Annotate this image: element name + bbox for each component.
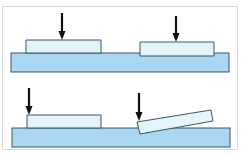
bottom-left-block xyxy=(27,115,101,128)
base-plate xyxy=(12,128,230,147)
panel-bottom xyxy=(12,88,230,147)
block-pressure-diagram xyxy=(0,0,245,154)
arrowhead-icon xyxy=(59,31,66,40)
arrowhead-icon xyxy=(173,33,180,42)
top-right-block xyxy=(140,42,214,56)
arrowhead-icon xyxy=(136,112,143,121)
panel-top xyxy=(11,13,229,72)
top-left-block xyxy=(26,40,101,53)
arrowhead-icon xyxy=(26,106,33,115)
